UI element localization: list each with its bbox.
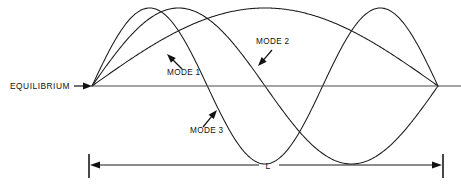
equilibrium-label: EQUILIBRIUM <box>10 81 70 91</box>
callout-mode-2: MODE 2 <box>256 37 290 66</box>
dimension-label-L: L <box>265 161 270 171</box>
callout-mode-3: MODE 3 <box>190 110 224 135</box>
mode-curve-1 <box>92 8 438 86</box>
dimension-arrow-left-icon <box>90 161 100 168</box>
equilibrium-arrow-icon <box>83 82 92 89</box>
mode-2-label: MODE 2 <box>256 37 290 46</box>
standing-wave-diagram: EQUILIBRIUM MODE 1MODE 2MODE 3 L <box>0 0 461 190</box>
callout-mode-1: MODE 1 <box>167 54 201 77</box>
mode-3-label: MODE 3 <box>190 126 224 135</box>
equilibrium-axis-group: EQUILIBRIUM <box>10 81 461 91</box>
wave-diagram-svg: EQUILIBRIUM MODE 1MODE 2MODE 3 L <box>0 0 461 190</box>
mode-1-label: MODE 1 <box>167 68 201 77</box>
dimension-arrow-right-icon <box>432 161 442 168</box>
length-dimension-group: L <box>89 154 443 178</box>
